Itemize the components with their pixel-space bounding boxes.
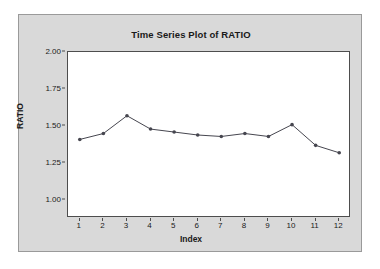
x-tick-label: 9 (265, 221, 269, 230)
y-axis-title: RATIO (15, 103, 25, 129)
x-tick-label: 12 (334, 221, 343, 230)
x-tick-mark (267, 218, 268, 221)
x-tick-label: 6 (194, 221, 198, 230)
graph-panel: Time Series Plot of RATIO RATIO 2.001.75… (18, 14, 362, 252)
data-point (125, 114, 129, 118)
x-tick-mark (220, 218, 221, 221)
x-tick-mark (291, 218, 292, 221)
x-tick-label: 2 (100, 221, 104, 230)
data-point (243, 132, 247, 136)
x-tick-label: 3 (124, 221, 128, 230)
x-tick-mark (126, 218, 127, 221)
y-tick-label: 2.00 (45, 47, 61, 56)
y-axis-tick-labels: 2.001.751.501.251.00 (27, 51, 65, 217)
screenshot-page: Time Series Plot of RATIO RATIO 2.001.75… (0, 0, 380, 269)
x-tick-label: 1 (77, 221, 81, 230)
x-tick-mark (197, 218, 198, 221)
data-point (267, 135, 271, 139)
data-point (196, 133, 200, 137)
x-tick-label: 5 (171, 221, 175, 230)
x-axis-title: Index (19, 234, 363, 244)
y-tick-mark (62, 125, 65, 126)
y-tick-mark (62, 51, 65, 52)
x-tick-mark (173, 218, 174, 221)
data-point (290, 123, 294, 127)
y-tick-label: 1.50 (45, 121, 61, 130)
series-markers (78, 114, 341, 155)
y-tick-mark (62, 162, 65, 163)
x-tick-mark (150, 218, 151, 221)
page-title: Time Series Plot of RATIO (19, 29, 363, 40)
x-tick-mark (244, 218, 245, 221)
x-axis-tick-labels: 123456789101112 (67, 218, 350, 232)
data-point (78, 138, 82, 142)
series-line-ratio (80, 116, 339, 153)
x-tick-label: 11 (310, 221, 318, 230)
x-tick-label: 4 (147, 221, 151, 230)
y-tick-mark (62, 88, 65, 89)
x-tick-label: 8 (242, 221, 246, 230)
plot-area (67, 51, 350, 217)
x-tick-mark (102, 218, 103, 221)
data-point (102, 132, 106, 136)
y-tick-label: 1.00 (45, 195, 61, 204)
data-point (172, 130, 176, 134)
x-tick-mark (338, 218, 339, 221)
x-tick-label: 10 (287, 221, 296, 230)
data-point (219, 135, 223, 139)
y-tick-mark (62, 199, 65, 200)
y-tick-label: 1.75 (45, 84, 61, 93)
data-point (337, 151, 341, 155)
x-tick-mark (315, 218, 316, 221)
data-point (149, 127, 153, 131)
x-tick-mark (79, 218, 80, 221)
y-tick-label: 1.25 (45, 158, 61, 167)
x-tick-label: 7 (218, 221, 222, 230)
line-series-svg (68, 52, 351, 218)
data-point (314, 144, 318, 148)
